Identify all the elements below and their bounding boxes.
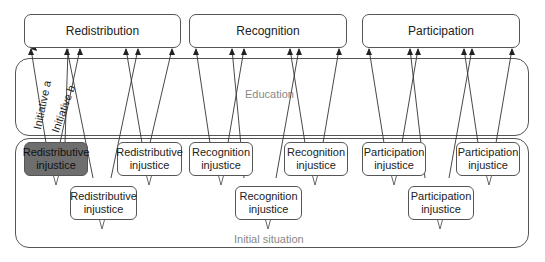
- redistribution-label: Redistribution: [66, 24, 139, 38]
- participation-injustice-3: Participation injustice: [408, 186, 474, 220]
- participation-injustice-2: Participation injustice: [456, 142, 520, 176]
- participation-label: Participation: [408, 24, 474, 38]
- redistribution-box: Redistribution: [24, 14, 181, 48]
- recognition-label: Recognition: [236, 24, 299, 38]
- redistributive-injustice-2: Redistributive injustice: [117, 142, 182, 176]
- recognition-injustice-1: Recognition injustice: [189, 142, 253, 176]
- recognition-injustice-3: Recognition injustice: [235, 186, 302, 220]
- injustice-label: Redistributive injustice: [23, 146, 90, 172]
- participation-box: Participation: [362, 14, 520, 48]
- injustice-label: Recognition injustice: [287, 146, 345, 172]
- injustice-label: Participation injustice: [411, 190, 472, 216]
- participation-injustice-1: Participation injustice: [362, 142, 426, 176]
- redistributive-injustice-3: Redistributive injustice: [70, 186, 137, 220]
- injustice-label: Redistributive injustice: [70, 190, 137, 216]
- injustice-label: Participation injustice: [364, 146, 425, 172]
- injustice-label: Recognition injustice: [192, 146, 250, 172]
- injustice-label: Redistributive injustice: [116, 146, 183, 172]
- recognition-injustice-2: Recognition injustice: [284, 142, 348, 176]
- injustice-label: Recognition injustice: [238, 190, 299, 216]
- redistributive-injustice-highlighted: Redistributive injustice: [24, 142, 88, 176]
- recognition-box: Recognition: [189, 14, 347, 48]
- injustice-label: Participation injustice: [458, 146, 519, 172]
